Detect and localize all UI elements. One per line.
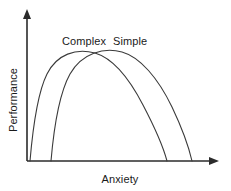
chart-figure: Complex Simple Anxiety Performance xyxy=(0,0,231,191)
series-label-simple: Simple xyxy=(113,35,147,47)
x-axis-label: Anxiety xyxy=(102,173,139,185)
curve-simple xyxy=(51,50,192,161)
x-axis-arrowhead-icon xyxy=(209,157,219,165)
inverted-u-performance-anxiety-chart: Complex Simple Anxiety Performance xyxy=(0,0,231,191)
y-axis-label: Performance xyxy=(7,68,19,132)
series-label-complex: Complex xyxy=(62,35,107,47)
y-axis-arrowhead-icon xyxy=(23,9,31,19)
